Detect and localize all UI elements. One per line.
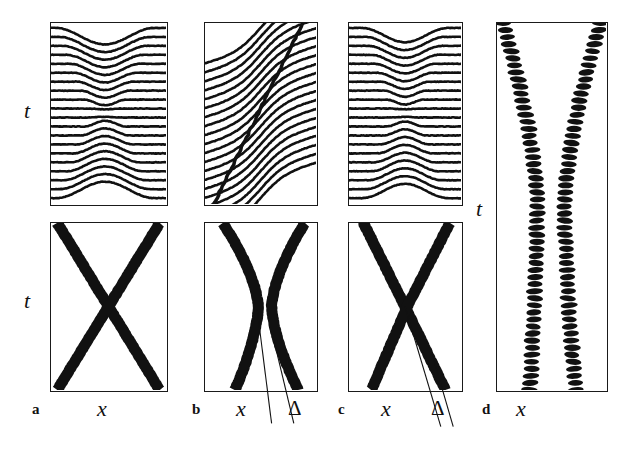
panel-d-trajectories [496, 22, 608, 392]
t-axis-label-a-bottom: t [24, 290, 30, 312]
panel-letter-c: c [338, 402, 345, 417]
x-axis-label-c: x [381, 398, 391, 420]
panel-letter-d: d [482, 402, 490, 417]
panel-c-trajectories [348, 222, 463, 392]
panel-a-field [50, 22, 168, 206]
delta-label-b: Δ [288, 398, 302, 419]
x-axis-label-d: x [516, 398, 526, 420]
panel-letter-a: a [32, 402, 40, 417]
t-axis-label-d: t [476, 198, 482, 220]
delta-label-c: Δ [431, 398, 445, 419]
x-axis-label-a: x [97, 398, 107, 420]
figure-root: axttbxΔcxΔdxt [0, 0, 640, 450]
t-axis-label-a-top: t [24, 100, 30, 122]
panel-b-trajectories [204, 222, 318, 392]
panel-letter-b: b [192, 402, 200, 417]
panel-c-field [348, 22, 463, 206]
x-axis-label-b: x [236, 398, 246, 420]
panel-a-trajectories [50, 222, 168, 392]
panel-b-field [204, 22, 318, 206]
